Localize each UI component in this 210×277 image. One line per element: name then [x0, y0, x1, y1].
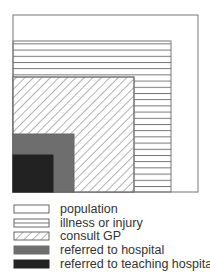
- legend-swatch-consult: [14, 232, 49, 240]
- legend: population illness or injury consult GP …: [14, 202, 210, 271]
- legend-swatch-hospital: [14, 246, 49, 254]
- legend-swatch-population: [14, 205, 49, 213]
- legend-swatch-teaching: [14, 260, 49, 268]
- legend-label-hospital: referred to hospital: [60, 243, 164, 257]
- legend-label-consult: consult GP: [60, 229, 121, 243]
- legend-label-teaching: referred to teaching hospital: [60, 257, 210, 271]
- legend-label-illness: illness or injury: [60, 216, 143, 230]
- nested-population-diagram: population illness or injury consult GP …: [0, 0, 210, 277]
- teaching-hospital-area: [13, 155, 53, 192]
- legend-label-population: population: [60, 202, 118, 216]
